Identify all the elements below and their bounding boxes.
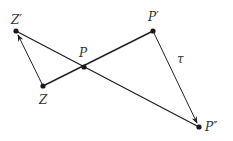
point-pprime: [150, 28, 155, 33]
label-tau: τ: [177, 52, 184, 66]
label-p: P: [78, 46, 88, 60]
point-z: [40, 83, 45, 88]
label-zprime: Z′: [10, 13, 22, 27]
label-pdoubleprime: P″: [204, 120, 218, 134]
geometry-diagram: Z′ Z P P′ P″ τ: [0, 0, 233, 141]
diagram-canvas: Z′ Z P P′ P″ τ: [0, 0, 233, 141]
label-z: Z: [38, 93, 48, 107]
point-p: [81, 64, 86, 69]
point-pdoubleprime: [196, 124, 201, 129]
label-pprime: P′: [147, 10, 159, 24]
line-z-to-pprime: [43, 31, 153, 86]
line-zprime-to-pdoubleprime: [16, 31, 199, 127]
point-zprime: [13, 28, 18, 33]
arrow-pprime-to-pdoubleprime: [153, 31, 197, 123]
